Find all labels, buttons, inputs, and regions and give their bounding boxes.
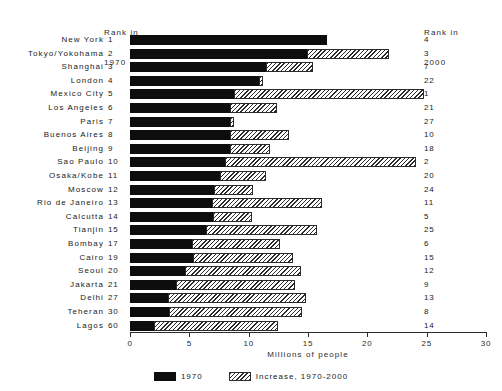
chart-row: Lagos6014 [0, 319, 502, 333]
bar-segment-1970 [130, 117, 230, 127]
bar-segment-increase [230, 117, 235, 127]
x-axis-tick-label: 30 [481, 339, 492, 348]
rank-2000-value: 11 [424, 196, 448, 210]
stacked-bar [130, 198, 322, 208]
rank-2000-value: 9 [424, 278, 448, 292]
bar-segment-1970 [130, 76, 259, 86]
bar-segment-increase [214, 185, 253, 195]
bar-segment-1970 [130, 307, 169, 317]
rank-2000-value: 5 [424, 210, 448, 224]
city-label: Teheran [0, 305, 104, 319]
x-axis-tick [308, 332, 309, 337]
bar-segment-increase [213, 212, 252, 222]
bar-segment-1970 [130, 225, 206, 235]
stacked-bar [130, 89, 424, 99]
rank-1970-value: 7 [108, 115, 124, 129]
x-axis-tick-label: 10 [243, 339, 254, 348]
stacked-bar [130, 76, 263, 86]
x-axis-tick [486, 332, 487, 337]
bar-segment-increase [259, 76, 263, 86]
rank-2000-value: 8 [424, 305, 448, 319]
bar-segment-increase [192, 239, 280, 249]
x-axis-tick-label: 20 [362, 339, 373, 348]
rank-2000-value: 15 [424, 251, 448, 265]
city-label: Mexico City [0, 87, 104, 101]
chart-row: Moscow1224 [0, 183, 502, 197]
rank-2000-value: 3 [424, 47, 448, 61]
chart-row: Paris727 [0, 115, 502, 129]
bar-segment-increase [176, 280, 295, 290]
bar-segment-1970 [130, 103, 230, 113]
x-axis-tick-label: 5 [187, 339, 192, 348]
legend-label: 1970 [181, 372, 203, 381]
stacked-bar [130, 130, 289, 140]
chart-row: Buenos Aires810 [0, 128, 502, 142]
bar-segment-1970 [130, 293, 168, 303]
bar-segment-increase [169, 307, 302, 317]
chart-row: Teheran308 [0, 305, 502, 319]
chart-row: Seoul2012 [0, 264, 502, 278]
bar-segment-1970 [130, 144, 230, 154]
chart-row: Tianjin1525 [0, 223, 502, 237]
bar-segment-increase [230, 130, 289, 140]
bar-segment-increase [234, 89, 424, 99]
legend-label: Increase, 1970-2000 [256, 372, 348, 381]
bar-segment-increase [206, 225, 318, 235]
city-label: Cairo [0, 251, 104, 265]
legend-item: 1970 [154, 372, 203, 381]
rank-2000-value: 12 [424, 264, 448, 278]
rank-2000-value: 1 [424, 87, 448, 101]
city-label: Beijing [0, 142, 104, 156]
stacked-bar [130, 35, 327, 45]
bar-segment-1970 [130, 239, 192, 249]
bar-segment-1970 [130, 198, 212, 208]
legend-item: Increase, 1970-2000 [229, 372, 348, 381]
rank-2000-value: 4 [424, 33, 448, 47]
chart-row: London422 [0, 74, 502, 88]
bar-segment-increase [220, 171, 266, 181]
stacked-bar [130, 185, 253, 195]
chart-row: Bombay176 [0, 237, 502, 251]
rank-2000-value: 21 [424, 101, 448, 115]
bar-segment-1970 [130, 212, 213, 222]
stacked-bar [130, 280, 295, 290]
population-bar-chart: Rank in 1970 Rank in 2000 New York14Toky… [0, 0, 502, 391]
legend-swatch-solid [154, 372, 176, 381]
chart-row: Osaka/Kobe1120 [0, 169, 502, 183]
bar-segment-1970 [130, 62, 266, 72]
rank-2000-value: 22 [424, 74, 448, 88]
rank-2000-value: 25 [424, 223, 448, 237]
bar-segment-1970 [130, 130, 230, 140]
rank-2000-value: 13 [424, 291, 448, 305]
rank-1970-value: 19 [108, 251, 124, 265]
chart-row: Los Angeles621 [0, 101, 502, 115]
city-label: Calcutta [0, 210, 104, 224]
chart-row: Calcutta145 [0, 210, 502, 224]
city-label: Jakarta [0, 278, 104, 292]
rank-2000-value: 20 [424, 169, 448, 183]
stacked-bar [130, 321, 278, 331]
rank-2000-value: 10 [424, 128, 448, 142]
bar-segment-increase [307, 49, 389, 59]
x-axis-tick [189, 332, 190, 337]
stacked-bar [130, 171, 266, 181]
stacked-bar [130, 225, 317, 235]
x-axis-tick-label: 25 [421, 339, 432, 348]
bar-segment-1970 [130, 35, 327, 45]
city-label: London [0, 74, 104, 88]
rank-2000-value: 6 [424, 237, 448, 251]
stacked-bar [130, 212, 252, 222]
chart-row: Mexico City51 [0, 87, 502, 101]
rank-1970-value: 60 [108, 319, 124, 333]
rank-1970-value: 12 [108, 183, 124, 197]
rank-2000-value: 24 [424, 183, 448, 197]
city-label: Rio de Janeiro [0, 196, 104, 210]
city-label: Tokyo/Yokohama [0, 47, 104, 61]
bar-segment-1970 [130, 185, 214, 195]
x-axis-tick [427, 332, 428, 337]
rank-1970-value: 9 [108, 142, 124, 156]
stacked-bar [130, 103, 277, 113]
legend-swatch-hatch [229, 372, 251, 381]
x-axis-tick-label: 0 [127, 339, 132, 348]
bar-segment-increase [230, 103, 277, 113]
